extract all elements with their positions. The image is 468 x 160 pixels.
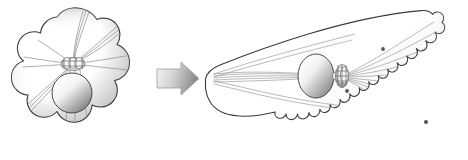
left-cell-nucleus	[52, 73, 92, 113]
vesicle	[345, 89, 349, 93]
left-cell-centrosome	[61, 58, 85, 71]
figure-canvas	[0, 0, 468, 160]
right-cell-nucleus	[298, 54, 334, 98]
cell-polarization-figure	[0, 0, 468, 160]
vesicle	[424, 120, 428, 124]
vesicle	[381, 47, 385, 51]
